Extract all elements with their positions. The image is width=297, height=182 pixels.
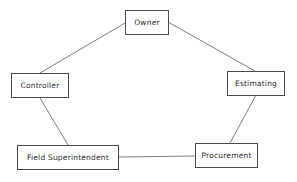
edge-field-superintendent-procurement [119, 156, 195, 157]
edge-controller-field-superintendent [40, 98, 68, 145]
node-controller-label: Controller [21, 81, 60, 90]
node-owner: Owner [125, 10, 169, 35]
node-procurement-label: Procurement [201, 151, 251, 160]
node-estimating: Estimating [227, 71, 285, 96]
node-estimating-label: Estimating [235, 79, 277, 88]
node-owner-label: Owner [134, 18, 160, 27]
node-controller: Controller [11, 73, 69, 98]
node-field-superintendent-label: Field Superintendent [27, 153, 109, 162]
edge-owner-estimating [168, 22, 255, 71]
node-field-superintendent: Field Superintendent [17, 145, 119, 170]
edge-estimating-procurement [230, 95, 256, 143]
edge-owner-controller [40, 23, 125, 73]
node-procurement: Procurement [195, 143, 258, 168]
